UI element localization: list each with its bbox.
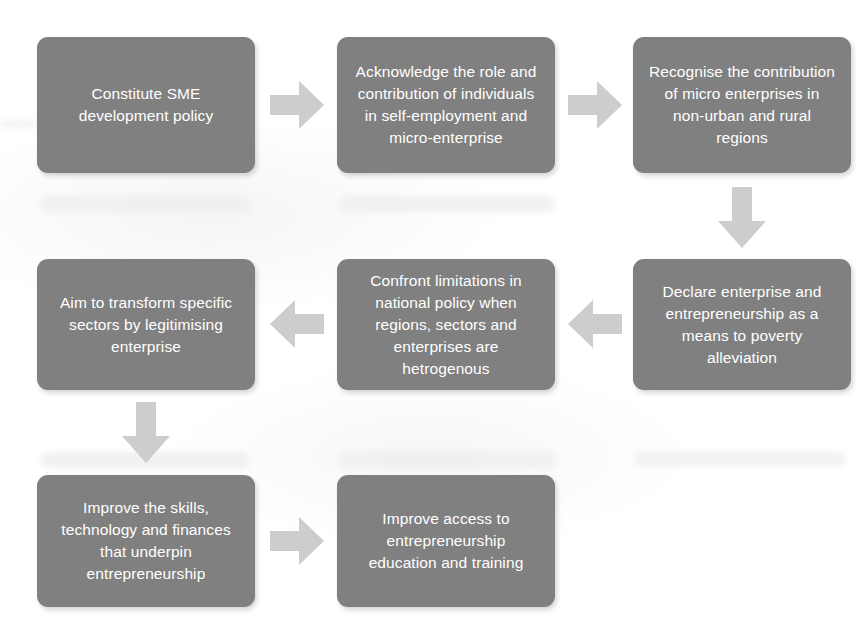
arrow-right-n1-n2	[268, 76, 326, 134]
node-label: Improve the skills, technology and finan…	[61, 497, 230, 585]
node-improve-access-entrepreneurship-education[interactable]: Improve access to entrepreneurship educa…	[337, 475, 555, 607]
arrow-left-n5-n6	[268, 295, 326, 353]
node-improve-skills-technology-finances[interactable]: Improve the skills, technology and finan…	[37, 475, 255, 607]
node-declare-enterprise-entrepreneurship-poverty[interactable]: Declare enterprise and entrepreneurship …	[633, 259, 851, 390]
scan-artifact	[340, 196, 555, 212]
scan-artifact	[0, 120, 36, 127]
node-label: Aim to transform specific sectors by leg…	[60, 292, 232, 358]
scan-artifact	[40, 196, 250, 212]
scan-artifact	[340, 452, 555, 468]
node-label: Confront limitations in national policy …	[370, 270, 521, 380]
node-label: Constitute SME development policy	[79, 83, 214, 127]
node-label: Improve access to entrepreneurship educa…	[369, 508, 524, 574]
arrow-left-n4-n5	[566, 295, 624, 353]
arrow-right-n7-n8	[268, 512, 326, 570]
arrow-down-n3-n4	[713, 185, 771, 251]
node-confront-limitations-national-policy[interactable]: Confront limitations in national policy …	[337, 259, 555, 390]
node-recognise-contribution-micro-enterprises[interactable]: Recognise the contribution of micro ente…	[633, 37, 851, 173]
scan-artifact	[634, 452, 846, 466]
arrow-right-n2-n3	[566, 76, 624, 134]
node-label: Recognise the contribution of micro ente…	[649, 61, 835, 149]
arrow-down-n6-n7	[117, 400, 175, 466]
node-constitute-sme-development-policy[interactable]: Constitute SME development policy	[37, 37, 255, 173]
node-label: Declare enterprise and entrepreneurship …	[662, 281, 821, 369]
node-label: Acknowledge the role and contribution of…	[356, 61, 537, 149]
diagram-canvas: Constitute SME development policy Acknow…	[0, 0, 865, 632]
node-acknowledge-role-contribution-individuals[interactable]: Acknowledge the role and contribution of…	[337, 37, 555, 173]
node-aim-transform-specific-sectors[interactable]: Aim to transform specific sectors by leg…	[37, 259, 255, 390]
